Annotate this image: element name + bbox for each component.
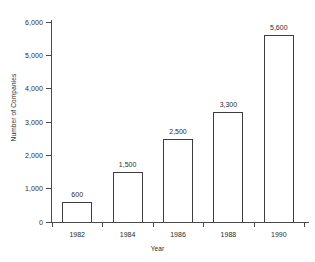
bar — [163, 139, 193, 222]
y-axis-tick-label: 6,000 — [25, 19, 43, 26]
bar — [264, 35, 294, 222]
bar-value-label: 2,500 — [158, 128, 198, 135]
x-axis-title: Year — [0, 245, 315, 252]
y-axis-tick-label: 3,000 — [25, 119, 43, 126]
x-axis-tick — [254, 222, 255, 227]
x-axis-tick — [153, 222, 154, 227]
x-axis-category-label: 1988 — [208, 231, 248, 238]
bar-value-label: 1,500 — [108, 161, 148, 168]
y-axis-tick-label: 2,000 — [25, 152, 43, 159]
y-axis-tick-label: 0 — [39, 219, 43, 226]
y-axis-tick-label: 4,000 — [25, 85, 43, 92]
bar-chart: Number of Companies 01,0002,0003,0004,00… — [0, 0, 315, 262]
y-axis-tick — [46, 188, 52, 189]
bar — [62, 202, 92, 222]
x-axis-line — [51, 222, 309, 223]
x-axis-category-label: 1982 — [57, 231, 97, 238]
y-axis-tick-label: 5,000 — [25, 52, 43, 59]
y-axis-tick — [46, 88, 52, 89]
y-axis-tick — [46, 122, 52, 123]
x-axis-category-label: 1990 — [259, 231, 299, 238]
x-axis-tick — [203, 222, 204, 227]
x-axis-tick — [52, 222, 53, 227]
x-axis-category-label: 1984 — [108, 231, 148, 238]
x-axis-tick — [102, 222, 103, 227]
bar — [213, 112, 243, 222]
x-axis-category-label: 1986 — [158, 231, 198, 238]
y-axis-tick-label: 1,000 — [25, 185, 43, 192]
bar-value-label: 3,300 — [208, 101, 248, 108]
bar-value-label: 600 — [57, 191, 97, 198]
y-axis-tick — [46, 22, 52, 23]
x-axis-tick — [304, 222, 305, 227]
y-axis-tick — [46, 55, 52, 56]
bar-value-label: 5,600 — [259, 24, 299, 31]
y-axis-title: Number of Companies — [10, 53, 17, 163]
bar — [113, 172, 143, 222]
y-axis-tick — [46, 155, 52, 156]
